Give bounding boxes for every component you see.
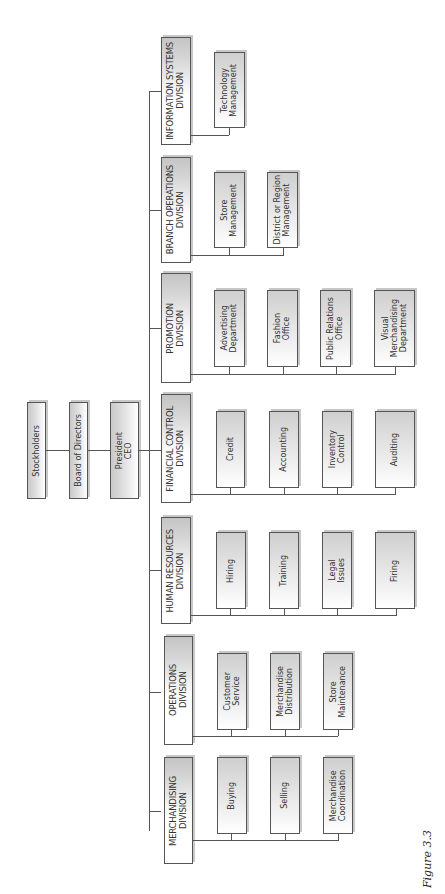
unit-bus-operations xyxy=(193,736,338,737)
division-label: FINANCIAL CONTROL DIVISION xyxy=(166,406,186,492)
connector-trunk-promotion xyxy=(149,328,161,329)
division-label: HUMAN RESOURCES DIVISION xyxy=(166,529,186,613)
unit-label: Merchandise Coordination xyxy=(329,770,347,821)
branch-operations-division-box: BRANCH OPERATIONS DIVISION xyxy=(161,157,191,263)
unit-tick xyxy=(285,729,286,736)
unit-tick xyxy=(229,128,230,135)
unit-tick xyxy=(337,608,338,615)
firing-box: Firing xyxy=(375,532,415,609)
accounting-box: Accounting xyxy=(269,411,299,488)
division-label: BRANCH OPERATIONS DIVISION xyxy=(166,165,186,254)
connector-trunk-merchandising xyxy=(149,811,161,812)
unit-tick xyxy=(396,608,397,615)
unit-tick xyxy=(284,608,285,615)
unit-label: Store Maintenance xyxy=(329,666,347,718)
stockholders-label: Stockholders xyxy=(32,425,41,477)
unit-bus-human-resources xyxy=(191,615,397,616)
president-label: President CEO xyxy=(115,432,133,469)
unit-bus-promotion xyxy=(191,374,396,375)
unit-label: Advertising Department xyxy=(220,304,238,352)
unit-label: Auditing xyxy=(390,433,399,466)
unit-tick xyxy=(229,248,230,255)
district-region-management-box: District or Region Management xyxy=(267,172,298,248)
unit-tick xyxy=(395,487,396,494)
board-label: Board of Directors xyxy=(74,414,83,487)
unit-tick xyxy=(230,487,231,494)
connector-trunk-operations xyxy=(149,692,161,693)
unit-label: Selling xyxy=(280,782,289,809)
store-management-box: Store Management xyxy=(214,172,245,248)
credit-box: Credit xyxy=(216,411,245,488)
division-label: OPERATIONS DIVISION xyxy=(169,664,189,716)
buying-box: Buying xyxy=(217,757,247,834)
unit-label: Hiring xyxy=(226,559,235,583)
inventory-control-box: Inventory Control xyxy=(322,411,352,488)
unit-label: Merchandise Distribution xyxy=(276,666,294,717)
unit-label: Training xyxy=(279,555,288,587)
connector-trunk-human-resources xyxy=(149,570,161,571)
unit-label: Firing xyxy=(390,560,399,582)
operations-division-box: OPERATIONS DIVISION xyxy=(164,636,193,745)
division-trunk-line xyxy=(149,91,150,831)
unit-tick xyxy=(229,367,230,374)
connector-trunk-branch-operations xyxy=(149,210,161,211)
unit-label: Customer Service xyxy=(223,672,241,711)
legal-issues-box: Legal Issues xyxy=(322,532,352,609)
unit-tick xyxy=(338,729,339,736)
division-label: INFORMATION SYSTEMS DIVISION xyxy=(166,42,186,140)
technology-management-box: Technology Management xyxy=(214,52,245,128)
unit-tick xyxy=(285,833,286,840)
unit-label: Buying xyxy=(227,782,236,810)
training-box: Training xyxy=(269,532,299,609)
public-relations-office-box: Public Relations Office xyxy=(320,290,351,367)
connector-trunk-information-systems xyxy=(149,91,161,92)
auditing-box: Auditing xyxy=(375,411,415,488)
hiring-box: Hiring xyxy=(216,532,246,609)
board-of-directors-box: Board of Directors xyxy=(69,402,88,499)
division-label: PROMOTION DIVISION xyxy=(166,303,186,354)
human-resources-division-box: HUMAN RESOURCES DIVISION xyxy=(161,517,191,624)
unit-bus-information-systems xyxy=(191,135,229,136)
unit-label: Public Relations Office xyxy=(326,297,344,360)
customer-service-box: Customer Service xyxy=(217,653,247,730)
unit-tick xyxy=(395,367,396,374)
unit-label: Credit xyxy=(226,437,235,461)
unit-tick xyxy=(230,608,231,615)
unit-label: Technology Management xyxy=(220,64,238,117)
stockholders-box: Stockholders xyxy=(27,402,46,499)
unit-label: Fashion Office xyxy=(273,313,291,343)
connector-stockholders-board xyxy=(46,450,69,451)
information-systems-division-box: INFORMATION SYSTEMS DIVISION xyxy=(161,37,191,145)
unit-label: Accounting xyxy=(279,427,288,472)
promotion-division-box: PROMOTION DIVISION xyxy=(161,273,191,383)
unit-tick xyxy=(336,367,337,374)
unit-label: Visual Merchandising Department xyxy=(381,299,409,357)
figure-caption: Figure 3.3 xyxy=(421,830,434,888)
merchandise-coordination-box: Merchandise Coordination xyxy=(323,757,353,834)
unit-label: District or Region Management xyxy=(273,175,291,244)
unit-bus-financial-control xyxy=(191,494,396,495)
connector-trunk-financial-control xyxy=(149,450,161,451)
unit-tick xyxy=(284,487,285,494)
fashion-office-box: Fashion Office xyxy=(267,290,298,367)
merchandise-distribution-box: Merchandise Distribution xyxy=(270,653,300,730)
visual-merchandising-department-box: Visual Merchandising Department xyxy=(374,290,415,367)
connector-board-president xyxy=(88,450,110,451)
president-ceo-box: President CEO xyxy=(110,402,139,499)
unit-tick xyxy=(231,729,232,736)
unit-tick xyxy=(283,248,284,255)
unit-bus-merchandising xyxy=(193,840,339,841)
unit-label: Inventory Control xyxy=(328,430,346,468)
unit-bus-branch-operations xyxy=(191,255,284,256)
unit-label: Store Management xyxy=(220,184,238,237)
unit-tick xyxy=(283,367,284,374)
advertising-department-box: Advertising Department xyxy=(214,290,245,367)
selling-box: Selling xyxy=(270,757,300,834)
unit-label: Legal Issues xyxy=(328,558,346,583)
unit-tick xyxy=(337,487,338,494)
unit-tick xyxy=(231,833,232,840)
financial-control-division-box: FINANCIAL CONTROL DIVISION xyxy=(161,394,191,503)
division-label: MERCHANDISING DIVISION xyxy=(169,776,189,846)
store-maintenance-box: Store Maintenance xyxy=(323,653,353,730)
merchandising-division-box: MERCHANDISING DIVISION xyxy=(164,757,193,864)
